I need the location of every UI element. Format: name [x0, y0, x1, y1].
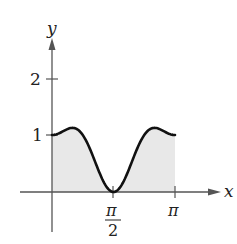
x-tick-label-pi-half-denominator: 2: [108, 221, 118, 240]
y-axis-label: y: [46, 18, 57, 38]
y-tick-label-1: 1: [32, 125, 43, 145]
graph-figure: y x 2 1 π 2 π: [0, 0, 237, 244]
plot-canvas: y x 2 1 π 2 π: [0, 0, 237, 244]
x-tick-label-pi-half-numerator: π: [105, 201, 117, 220]
y-tick-label-2: 2: [30, 69, 41, 89]
x-tick-label-pi: π: [167, 201, 179, 220]
x-axis-label: x: [224, 181, 234, 201]
x-axis-arrow-icon: [208, 189, 221, 196]
y-axis-arrow-icon: [49, 38, 56, 50]
shaded-region: [52, 128, 175, 192]
